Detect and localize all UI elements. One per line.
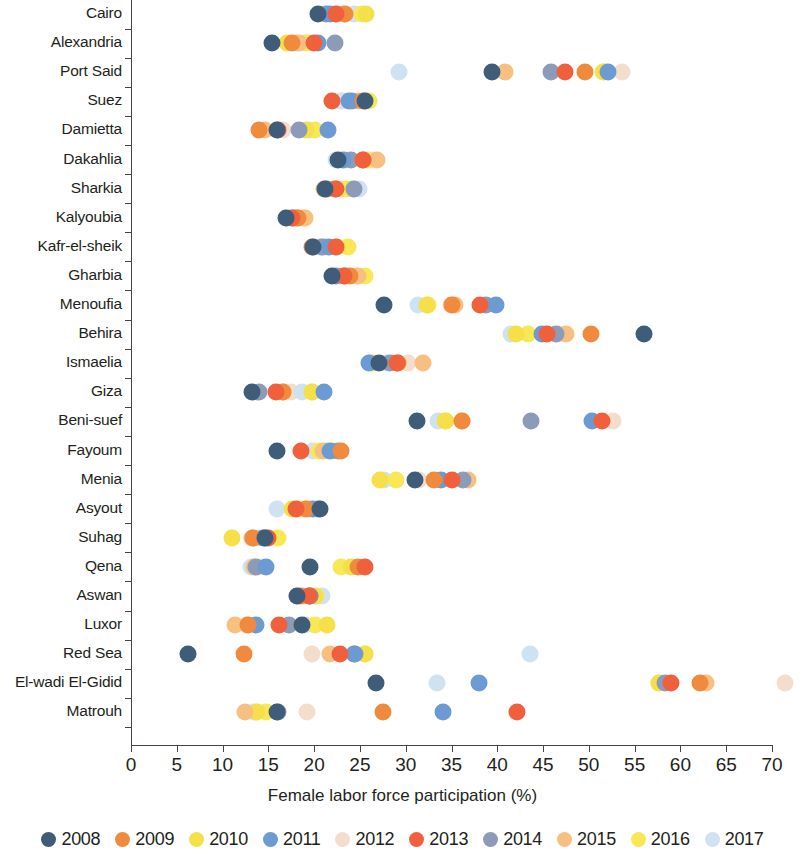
data-point [264, 35, 281, 52]
data-point [488, 297, 505, 314]
y-axis-tick [125, 727, 131, 728]
y-axis-tick [125, 145, 131, 146]
x-axis-tick-label: 50 [578, 754, 599, 776]
x-axis-tick [635, 745, 636, 752]
data-point [318, 617, 335, 634]
data-point [406, 471, 423, 488]
category-label: Port Said [0, 63, 122, 79]
y-axis-tick [125, 87, 131, 88]
data-point [235, 646, 252, 663]
data-point [309, 6, 326, 23]
plot-area [131, 0, 772, 745]
data-point [368, 675, 385, 692]
legend-label: 2009 [135, 829, 174, 850]
x-axis-tick [726, 745, 727, 752]
x-axis-tick-label: 60 [670, 754, 691, 776]
x-axis-tick-label: 70 [761, 754, 782, 776]
data-point [443, 471, 460, 488]
y-axis-tick [125, 290, 131, 291]
legend-swatch-icon [189, 832, 204, 847]
legend-item-2017[interactable]: 2017 [705, 829, 764, 850]
data-point [357, 558, 374, 575]
legend-item-2010[interactable]: 2010 [189, 829, 248, 850]
y-axis-tick [125, 261, 131, 262]
data-point [345, 180, 362, 197]
data-point [305, 238, 322, 255]
x-axis-title: Female labor force participation (%) [0, 786, 805, 806]
data-point [329, 151, 346, 168]
data-point [375, 297, 392, 314]
data-point [301, 558, 318, 575]
x-axis-tick-label: 25 [349, 754, 370, 776]
data-point [223, 529, 240, 546]
data-point [324, 93, 341, 110]
legend-item-2016[interactable]: 2016 [631, 829, 690, 850]
x-axis-tick [772, 745, 773, 752]
data-point [317, 180, 334, 197]
legend-item-2013[interactable]: 2013 [409, 829, 468, 850]
y-axis-tick [125, 581, 131, 582]
x-axis-tick-label: 35 [441, 754, 462, 776]
data-point [435, 704, 452, 721]
dot-plot-chart: CairoAlexandriaPort SaidSuezDamiettaDaka… [0, 0, 805, 853]
legend-item-2009[interactable]: 2009 [115, 829, 174, 850]
legend-label: 2012 [355, 829, 394, 850]
legend-swatch-icon [41, 832, 56, 847]
data-point [291, 122, 308, 139]
x-axis-tick [223, 745, 224, 752]
category-label: Aswan [0, 587, 122, 603]
legend-item-2015[interactable]: 2015 [557, 829, 616, 850]
category-label: Sharkia [0, 180, 122, 196]
category-label: Alexandria [0, 34, 122, 50]
x-axis-tick [406, 745, 407, 752]
category-label: Luxor [0, 616, 122, 632]
category-label: Fayoum [0, 442, 122, 458]
legend-swatch-icon [483, 832, 498, 847]
data-point [237, 704, 254, 721]
legend-item-2011[interactable]: 2011 [263, 829, 321, 850]
category-label: Kalyoubia [0, 209, 122, 225]
data-point [523, 413, 540, 430]
x-axis-tick [543, 745, 544, 752]
y-axis-tick [125, 407, 131, 408]
data-point [437, 413, 454, 430]
y-axis-tick [125, 174, 131, 175]
x-axis-tick-label: 20 [304, 754, 325, 776]
data-point [776, 675, 793, 692]
data-point [691, 675, 708, 692]
legend-item-2008[interactable]: 2008 [41, 829, 100, 850]
legend-swatch-icon [115, 832, 130, 847]
category-label: Menoufia [0, 296, 122, 312]
data-point [507, 326, 524, 343]
legend-item-2014[interactable]: 2014 [483, 829, 542, 850]
data-point [311, 500, 328, 517]
category-label: Suhag [0, 529, 122, 545]
data-point [294, 617, 311, 634]
legend-swatch-icon [705, 832, 720, 847]
x-axis-tick-label: 45 [532, 754, 553, 776]
data-point [179, 646, 196, 663]
data-point [538, 326, 555, 343]
y-axis-tick [125, 523, 131, 524]
legend-item-2012[interactable]: 2012 [335, 829, 394, 850]
x-axis-tick [177, 745, 178, 752]
data-point [316, 384, 333, 401]
data-point [298, 704, 315, 721]
x-axis-tick-label: 55 [624, 754, 645, 776]
data-point [388, 355, 405, 372]
y-axis-tick [125, 669, 131, 670]
data-point [240, 617, 257, 634]
category-label: Dakahlia [0, 151, 122, 167]
x-axis-tick-label: 40 [487, 754, 508, 776]
data-point [328, 238, 345, 255]
data-point [268, 442, 285, 459]
x-axis-tick [268, 745, 269, 752]
data-point [328, 6, 345, 23]
data-point [306, 35, 323, 52]
data-point [357, 93, 374, 110]
x-axis-tick-label: 15 [258, 754, 279, 776]
legend-label: 2015 [577, 829, 616, 850]
category-label: Cairo [0, 5, 122, 21]
category-label: Asyout [0, 500, 122, 516]
y-axis-tick [125, 58, 131, 59]
